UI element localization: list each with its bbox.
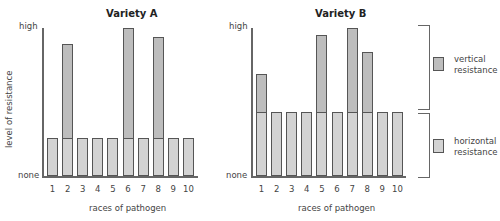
bar-horizontal-resistance [92, 138, 103, 176]
bar-horizontal-resistance [256, 112, 267, 176]
x-tick-label: 8 [360, 184, 374, 194]
chart-a-x-axis-label: races of pathogen [89, 203, 166, 213]
chart-b-x-axis-label: races of pathogen [298, 203, 375, 213]
bar-horizontal-resistance [347, 112, 358, 176]
chart-b-y-axis [251, 28, 253, 177]
bar-horizontal-resistance [286, 112, 297, 176]
bar-horizontal-resistance [362, 112, 373, 176]
x-tick-label: 2 [270, 184, 284, 194]
bar-horizontal-resistance [62, 138, 73, 176]
bar-horizontal-resistance [77, 138, 88, 176]
chart-a-y-axis [42, 28, 44, 177]
x-tick-label: 7 [136, 184, 150, 194]
x-tick-label: 7 [345, 184, 359, 194]
x-tick-label: 3 [285, 184, 299, 194]
x-tick-label: 8 [151, 184, 165, 194]
x-tick-label: 1 [46, 184, 60, 194]
x-tick-label: 3 [76, 184, 90, 194]
x-tick-label: 5 [106, 184, 120, 194]
x-tick-label: 4 [91, 184, 105, 194]
bar-horizontal-resistance [183, 138, 194, 176]
bar-vertical-resistance [362, 52, 373, 113]
chart-b-y-none: none [226, 170, 247, 180]
bar-vertical-resistance [123, 28, 134, 138]
chart-b-title: Variety B [315, 8, 366, 19]
bar-horizontal-resistance [123, 138, 134, 176]
chart-a-x-axis [42, 176, 198, 178]
bar-vertical-resistance [62, 44, 73, 137]
x-tick-label: 5 [315, 184, 329, 194]
bar-horizontal-resistance [138, 138, 149, 176]
legend-label-vertical: vertical resistance [454, 54, 498, 76]
x-tick-label: 9 [375, 184, 389, 194]
x-tick-label: 6 [330, 184, 344, 194]
x-tick-label: 4 [300, 184, 314, 194]
x-tick-label: 6 [121, 184, 135, 194]
x-tick-label: 10 [181, 184, 195, 194]
bar-vertical-resistance [316, 35, 327, 112]
chart-a-title: Variety A [106, 8, 158, 19]
bar-vertical-resistance [153, 37, 164, 138]
x-tick-label: 10 [390, 184, 404, 194]
x-tick-label: 9 [166, 184, 180, 194]
x-tick-label: 1 [255, 184, 269, 194]
bar-horizontal-resistance [316, 112, 327, 176]
chart-b-x-axis [251, 176, 406, 178]
bar-horizontal-resistance [153, 138, 164, 176]
x-tick-label: 2 [61, 184, 75, 194]
chart-a-y-high: high [19, 21, 38, 31]
bar-horizontal-resistance [271, 112, 282, 176]
chart-b-y-high: high [229, 21, 248, 31]
bar-horizontal-resistance [301, 112, 312, 176]
bar-horizontal-resistance [107, 138, 118, 176]
bar-vertical-resistance [256, 74, 267, 112]
bar-horizontal-resistance [377, 112, 388, 176]
bar-horizontal-resistance [332, 112, 343, 176]
legend-label-horizontal: horizontal resistance [454, 136, 498, 158]
bar-horizontal-resistance [392, 112, 403, 176]
legend-swatch-horizontal [433, 139, 444, 153]
legend-bracket-horizontal [418, 113, 430, 178]
bar-vertical-resistance [347, 28, 358, 112]
legend-bracket-vertical [418, 25, 430, 110]
bar-horizontal-resistance [47, 138, 58, 176]
chart-a-y-none: none [18, 170, 39, 180]
bar-horizontal-resistance [168, 138, 179, 176]
chart-a-y-axis-label: level of resistance [4, 71, 14, 148]
legend-swatch-vertical [433, 57, 444, 71]
